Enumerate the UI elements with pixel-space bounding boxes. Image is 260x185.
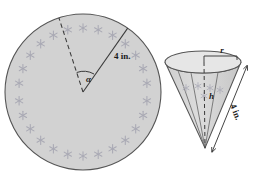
figure-root: α 4 in. [0, 0, 260, 185]
diagram-canvas: α 4 in. [0, 0, 260, 185]
circle-figure: α 4 in. [5, 14, 161, 170]
cone-figure: h r 4 in. [165, 45, 247, 152]
cone-rim [165, 51, 241, 73]
cone-radius-label: r [220, 45, 224, 55]
cone-slant-label: 4 in. [228, 102, 243, 121]
circle-radius-label: 4 in. [114, 51, 131, 61]
cone-height-label: h [209, 91, 214, 101]
